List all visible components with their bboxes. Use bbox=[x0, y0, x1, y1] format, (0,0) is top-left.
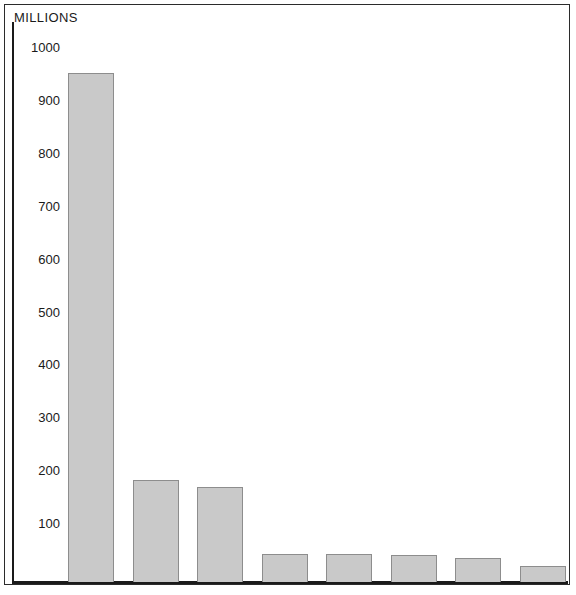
bar[interactable] bbox=[197, 487, 243, 582]
bar[interactable] bbox=[520, 566, 566, 582]
bar[interactable] bbox=[262, 554, 308, 582]
bar[interactable] bbox=[133, 480, 179, 582]
bar-chart-figure: MILLIONS 1000900800700600500400300200100… bbox=[0, 0, 576, 595]
bar[interactable] bbox=[455, 558, 501, 582]
bar[interactable] bbox=[68, 73, 114, 582]
bar[interactable] bbox=[326, 554, 372, 582]
bar[interactable] bbox=[391, 555, 437, 582]
bars-layer: Roman Catholics 962,633,000Pentecostals … bbox=[0, 0, 576, 595]
